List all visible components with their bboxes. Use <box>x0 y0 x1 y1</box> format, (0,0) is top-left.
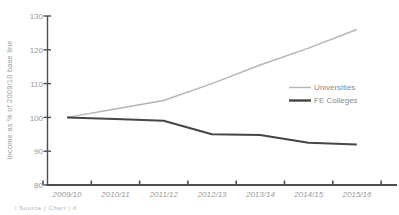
y-tick-120: 120 <box>30 46 44 55</box>
y-tick-100: 100 <box>30 114 44 123</box>
y-tick-130: 130 <box>30 12 44 21</box>
chart-container: 130 120 110 100 90 80 2009/10 2010/11 20… <box>0 0 399 215</box>
legend-label-fe-colleges: FE Colleges <box>314 96 358 105</box>
x-tick-2015-16: 2015/16 <box>342 190 372 199</box>
line-chart: 130 120 110 100 90 80 2009/10 2010/11 20… <box>0 0 399 215</box>
y-tick-90: 90 <box>34 147 43 156</box>
x-tick-2009-10: 2009/10 <box>52 190 82 199</box>
x-axis-tick-labels: 2009/10 2010/11 2011/12 2012/13 2013/14 … <box>52 190 372 199</box>
x-tick-2010-11: 2010/11 <box>100 190 129 199</box>
x-tick-2013-14: 2013/14 <box>245 190 275 199</box>
x-tick-2011-12: 2011/12 <box>149 190 179 199</box>
y-tick-80: 80 <box>34 181 43 190</box>
legend: Universities FE Colleges <box>289 83 358 105</box>
y-axis-tick-labels: 130 120 110 100 90 80 <box>30 12 44 190</box>
legend-label-universities: Universities <box>314 83 355 92</box>
x-tick-2014-15: 2014/15 <box>293 190 323 199</box>
series-line-fe-colleges <box>67 117 357 144</box>
y-tick-110: 110 <box>30 80 43 89</box>
x-tick-2012-13: 2012/13 <box>197 190 227 199</box>
y-axis-title: Income as % of 2009/10 base line <box>5 40 14 159</box>
clipped-caption: i Source | Chart | d <box>15 205 235 215</box>
